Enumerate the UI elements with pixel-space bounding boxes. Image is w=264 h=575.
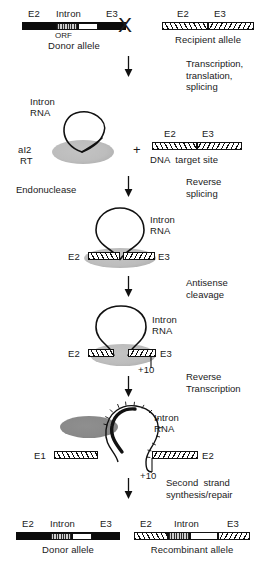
stage1-exon-right-bar bbox=[123, 252, 155, 260]
cross-symbol: X bbox=[118, 14, 132, 35]
bottom-donor-intron-white-segment bbox=[72, 533, 92, 540]
target-exon-right-bar bbox=[197, 142, 242, 150]
figure-canvas: E2 Intron E3 ORF Donor allele X E2 E3 Re… bbox=[0, 0, 264, 575]
recombinant-orf-block bbox=[168, 532, 190, 540]
stage-antisense-cleaved: Intron RNA E2 E3 +10 bbox=[82, 302, 262, 374]
recombinant-intron-white-segment bbox=[190, 532, 218, 540]
recombinant-exon-right-bar bbox=[218, 532, 250, 540]
step-antisense-cleavage-label: Antisense cleavage bbox=[186, 277, 228, 300]
recipient-allele-caption: Recipient allele bbox=[160, 34, 256, 45]
step-transcription-label: Transcription, translation, splicing bbox=[186, 58, 243, 93]
bottom-donor-intron-label: Intron bbox=[50, 518, 75, 529]
recombinant-allele: E2 Intron E3 Recombinant allele bbox=[134, 518, 250, 558]
dna-target-site-caption: DNA target site bbox=[150, 154, 218, 165]
donor-orf-block bbox=[56, 23, 78, 30]
recombinant-exon-left-label: E2 bbox=[140, 518, 152, 529]
donor-allele-bottom: E2 Intron E3 Donor allele bbox=[16, 518, 120, 558]
step-endonuclease-label: Endonuclease bbox=[16, 184, 76, 196]
dna-target-site: E2 E3 DNA target site bbox=[152, 128, 242, 164]
stage2-cleavage-site-label: +10 bbox=[138, 364, 154, 375]
recipient-exon-right-bar bbox=[208, 22, 254, 30]
lariat-rna-loop bbox=[52, 104, 132, 160]
bottom-donor-orf-block bbox=[50, 533, 72, 540]
rnp-protein-label-line1: aI2 bbox=[18, 144, 32, 155]
recombinant-exon-right-label: E3 bbox=[227, 518, 239, 529]
stage3-cleavage-site-label: +10 bbox=[140, 470, 156, 481]
arrow-antisense-cleavage bbox=[122, 276, 135, 298]
step-second-strand-label: Second strand synthesis/repair bbox=[166, 477, 233, 500]
recombinant-intron-label: Intron bbox=[174, 518, 199, 529]
donor-allele-caption: Donor allele bbox=[22, 40, 126, 51]
stage3-exon-left-label: E1 bbox=[34, 450, 46, 461]
arrow-transcription bbox=[122, 56, 135, 78]
target-exon-left-label: E2 bbox=[164, 128, 176, 139]
recipient-exon-right-label: E3 bbox=[214, 8, 226, 19]
recipient-exon-left-label: E2 bbox=[177, 8, 189, 19]
stage1-exon-left-bar bbox=[88, 252, 120, 260]
target-exon-left-bar bbox=[152, 142, 197, 150]
arrow-reverse-transcription bbox=[122, 376, 135, 398]
recipient-allele: E2 E3 Recipient allele bbox=[162, 8, 254, 48]
target-exon-right-label: E3 bbox=[202, 128, 214, 139]
stage2-exon-left-label: E2 bbox=[68, 348, 80, 359]
donor-allele-top: E2 Intron E3 ORF Donor allele bbox=[22, 8, 126, 48]
recombinant-allele-caption: Recombinant allele bbox=[130, 544, 254, 555]
step-reverse-splicing-label: Reverse splicing bbox=[186, 176, 221, 199]
stage1-exon-right-label: E3 bbox=[158, 251, 170, 262]
step-reverse-transcription-label: Reverse Transcription bbox=[186, 371, 241, 394]
arrow-second-strand-synthesis bbox=[122, 478, 135, 500]
stage3-exon-right-label: E2 bbox=[202, 450, 214, 461]
stage2-exon-right-label: E3 bbox=[160, 348, 172, 359]
stage-reverse-spliced: Intron RNA E2 E3 bbox=[82, 204, 262, 272]
stage-reverse-transcription: Intron RNA bbox=[30, 396, 262, 476]
donor-orf-label: ORF bbox=[55, 31, 72, 40]
stage3-rna-cdna-structure bbox=[90, 400, 200, 470]
rnp-particle: Intron RNA aI2 RT bbox=[16, 96, 136, 174]
donor-exon-left-label: E2 bbox=[28, 8, 40, 19]
donor-exon-right-label: E3 bbox=[106, 8, 118, 19]
stage2-exon-left-bar bbox=[88, 349, 114, 357]
stage3-exon-left-bar bbox=[54, 451, 98, 459]
plus-symbol: + bbox=[133, 143, 141, 156]
bottom-donor-exon-left-label: E2 bbox=[22, 518, 34, 529]
rnp-protein-label-line2: RT bbox=[20, 155, 33, 166]
stage1-exon-left-label: E2 bbox=[68, 251, 80, 262]
bottom-donor-exon-right-label: E3 bbox=[100, 518, 112, 529]
donor-intron-label: Intron bbox=[56, 8, 81, 19]
recombinant-exon-left-bar bbox=[134, 532, 168, 540]
donor-intron-white-segment bbox=[78, 23, 98, 30]
arrow-reverse-splicing bbox=[122, 176, 135, 198]
recipient-exon-left-bar bbox=[162, 22, 208, 30]
bottom-donor-caption: Donor allele bbox=[16, 544, 120, 555]
